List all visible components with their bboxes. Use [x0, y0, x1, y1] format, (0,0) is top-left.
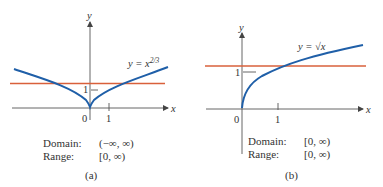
- panel-a-origin-label: 0: [82, 113, 87, 124]
- panel-a-y-tick-label: 1: [83, 84, 88, 95]
- panel-a-range: Range:[0, ∞): [43, 150, 125, 163]
- panel-a-x-tick-label: 1: [106, 113, 111, 124]
- panel-a-domain-value: (−∞, ∞): [99, 137, 134, 149]
- panel-a-domain: Domain:(−∞, ∞): [43, 137, 134, 150]
- panel-b-domain-value: [0, ∞): [304, 135, 330, 147]
- panel-b-domain: Domain:[0, ∞): [248, 135, 330, 148]
- panel-a-domain-key: Domain:: [43, 137, 99, 150]
- panel-b-range-value: [0, ∞): [304, 148, 330, 160]
- panel-b-y-tick-label: 1: [235, 67, 240, 78]
- panel-a-caption: (a): [85, 169, 97, 182]
- panel-b-y-axis-label: y: [238, 22, 244, 33]
- panel-b-domain-key: Domain:: [248, 135, 304, 148]
- panel-b-function-label: y = √x: [297, 41, 326, 52]
- panel-a-y-axis-label: y: [86, 10, 92, 21]
- panel-b-range: Range:[0, ∞): [248, 148, 330, 161]
- panel-a-function-label: y = x2/3: [127, 56, 159, 69]
- panel-b-caption: (b): [285, 169, 298, 182]
- panel-b-range-key: Range:: [248, 148, 304, 161]
- panel-a-x-axis-label: x: [170, 103, 176, 114]
- panel-b-x-axis-label: x: [365, 104, 371, 115]
- panel-a-range-value: [0, ∞): [99, 150, 125, 162]
- panel-a-range-key: Range:: [43, 150, 99, 163]
- panel-b-origin-label: 0: [234, 114, 239, 125]
- panel-a-curve: [14, 67, 168, 107]
- panel-b-curve: [242, 45, 363, 108]
- panel-a-plot: y x 0 1 1 y = x2/3: [10, 10, 176, 124]
- panel-b-x-tick-label: 1: [275, 114, 280, 125]
